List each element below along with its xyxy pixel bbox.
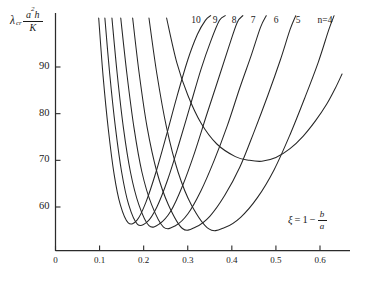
x-axis-label-denominator: a <box>318 221 327 231</box>
curve-n-8 <box>112 16 243 227</box>
y-tick-label-80: 80 <box>26 108 50 119</box>
curve-label-n4: n=4 <box>312 16 338 26</box>
curve-label-10: 10 <box>186 16 206 26</box>
x-axis-label-equals: = <box>295 215 301 226</box>
y-axis-label-fraction: a2h K <box>23 9 43 33</box>
y-axis-label-lambda: λ <box>10 15 15 27</box>
chart-figure: λcr a2h K ξ = 1 − b a 60708090 00.10.20.… <box>0 0 371 282</box>
plot-canvas <box>0 0 371 282</box>
x-tick-label-0: 0 <box>43 256 69 265</box>
y-axis-label-numerator: a2h <box>24 9 42 21</box>
curve-n-4 <box>167 18 342 161</box>
x-axis-label-numerator: b <box>318 210 327 220</box>
curve-label-9: 9 <box>205 16 225 26</box>
x-axis-label-fraction: b a <box>318 210 327 231</box>
x-axis-ticks <box>56 246 321 251</box>
x-tick-label-0.4: 0.4 <box>219 256 245 265</box>
x-tick-label-0.2: 0.2 <box>131 256 157 265</box>
y-axis-ticks <box>56 67 61 207</box>
x-tick-label-0.3: 0.3 <box>175 256 201 265</box>
x-axis-label-one: 1 <box>302 215 307 226</box>
x-tick-label-0.5: 0.5 <box>263 256 289 265</box>
y-tick-label-90: 90 <box>26 61 50 72</box>
curve-series-group <box>99 16 342 231</box>
y-axis-label-subscript: cr <box>16 20 22 27</box>
y-axis-label-denominator: K <box>27 22 38 33</box>
curve-label-6: 6 <box>266 16 286 26</box>
y-axis-label: λcr a2h K <box>10 9 43 33</box>
curve-label-8: 8 <box>224 16 244 26</box>
y-tick-label-70: 70 <box>26 154 50 165</box>
y-tick-label-60: 60 <box>26 201 50 212</box>
x-tick-label-0.1: 0.1 <box>87 256 113 265</box>
curve-label-5: 5 <box>288 16 308 26</box>
x-axis-label-minus: − <box>310 215 316 226</box>
x-axis-label: ξ = 1 − b a <box>288 210 327 231</box>
curve-n-6 <box>133 16 296 231</box>
y-axis-num-exponent: 2 <box>31 5 35 13</box>
curve-n-7 <box>121 16 266 229</box>
curve-label-7: 7 <box>243 16 263 26</box>
x-tick-label-0.6: 0.6 <box>307 256 333 265</box>
curve-n-10 <box>99 16 211 224</box>
y-axis-num-h: h <box>35 9 40 20</box>
x-axis-label-symbol: ξ <box>288 215 293 226</box>
